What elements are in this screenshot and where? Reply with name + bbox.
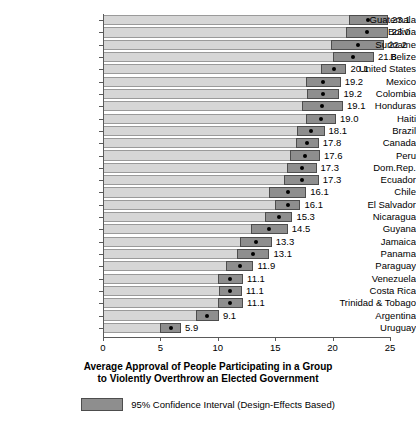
point-estimate-dot <box>228 277 232 281</box>
y-axis-tick <box>99 106 103 107</box>
bar-value-label: 9.1 <box>223 311 236 321</box>
bar-track <box>103 89 339 99</box>
y-axis-tick-label: Nicaragua <box>317 212 416 222</box>
bar-track <box>103 150 320 160</box>
y-axis-line <box>103 14 104 337</box>
y-axis-tick <box>99 94 103 95</box>
point-estimate-dot <box>251 252 255 256</box>
y-axis-tick-label: Ecuador <box>317 175 416 185</box>
x-axis-title-line1: Average Approval of People Participating… <box>0 361 416 373</box>
y-axis-tick-label: Canada <box>317 138 416 148</box>
point-estimate-dot <box>300 166 304 170</box>
y-axis-tick-label: Chile <box>317 188 416 198</box>
y-axis-tick <box>99 279 103 280</box>
y-axis-tick <box>99 291 103 292</box>
point-estimate-dot <box>300 178 304 182</box>
y-axis-tick-label: Argentina <box>317 311 416 321</box>
bar-value-label: 15.3 <box>296 212 315 222</box>
y-axis-tick-label: Colombia <box>317 89 416 99</box>
chart-container: 23.123.022.221.820.119.219.219.119.018.1… <box>0 0 416 427</box>
point-estimate-dot <box>286 190 290 194</box>
y-axis-tick <box>99 69 103 70</box>
y-axis-tick-label: Suriname <box>317 40 416 50</box>
bar-track <box>103 163 317 173</box>
y-axis-tick-label: United States <box>317 65 416 75</box>
y-axis-tick <box>99 254 103 255</box>
y-axis-tick-label: Belize <box>317 52 416 62</box>
x-axis-tick <box>275 337 276 341</box>
bar-value-label: 11.1 <box>247 298 265 308</box>
bar-value-label: 14.5 <box>292 225 311 235</box>
x-axis-tick <box>333 337 334 341</box>
y-axis-tick <box>99 242 103 243</box>
y-axis-tick-label: Mexico <box>317 77 416 87</box>
y-axis-tick <box>99 328 103 329</box>
x-axis-tick-label: 10 <box>213 343 224 353</box>
x-axis-tick-label: 5 <box>158 343 163 353</box>
y-axis-tick <box>99 229 103 230</box>
point-estimate-dot <box>238 264 242 268</box>
y-axis-tick <box>99 156 103 157</box>
y-axis-tick <box>99 45 103 46</box>
point-estimate-dot <box>267 227 271 231</box>
x-axis-line <box>103 337 391 338</box>
y-axis-tick <box>99 119 103 120</box>
x-axis-tick <box>390 337 391 341</box>
y-axis-tick <box>99 131 103 132</box>
y-axis-tick-label: Bolivia <box>317 28 416 38</box>
bar-value-label: 5.9 <box>185 323 198 333</box>
point-estimate-dot <box>303 154 307 158</box>
bar-track <box>103 200 300 210</box>
y-axis-tick <box>99 192 103 193</box>
y-axis-tick-label: Haiti <box>317 114 416 124</box>
y-axis-tick <box>99 205 103 206</box>
bar-value-label: 11.1 <box>247 274 265 284</box>
x-axis-tick <box>160 337 161 341</box>
bar-value-label: 13.3 <box>276 237 295 247</box>
bar-track <box>103 114 336 124</box>
y-axis-tick-label: Panama <box>317 249 416 259</box>
point-estimate-dot <box>277 215 281 219</box>
x-axis-tick-label: 15 <box>270 343 281 353</box>
point-estimate-dot <box>286 203 290 207</box>
x-axis-title: Average Approval of People Participating… <box>0 361 416 385</box>
y-axis-tick-label: Dom.Rep. <box>317 163 416 173</box>
point-estimate-dot <box>305 141 309 145</box>
y-axis-tick-label: Brazil <box>317 126 416 136</box>
point-estimate-dot <box>254 240 258 244</box>
y-axis-tick-label: Uruguay <box>317 323 416 333</box>
x-axis-tick <box>103 337 104 341</box>
point-estimate-dot <box>228 301 232 305</box>
y-axis-tick-label: Paraguay <box>317 262 416 272</box>
legend-swatch-ci <box>81 398 123 411</box>
legend-label-ci: 95% Confidence Interval (Design-Effects … <box>131 400 335 410</box>
x-axis-title-line2: to Violently Overthrow an Elected Govern… <box>0 373 416 385</box>
x-axis-tick <box>218 337 219 341</box>
y-axis-tick <box>99 168 103 169</box>
y-axis-tick <box>99 180 103 181</box>
y-axis-tick-label: Guatemala <box>317 15 416 25</box>
bar-value-label: 11.1 <box>246 286 264 296</box>
x-axis-tick-label: 25 <box>385 343 396 353</box>
bar-track <box>103 64 346 74</box>
y-axis-tick-label: Trinidad & Tobago <box>317 298 416 308</box>
point-estimate-dot <box>169 326 173 330</box>
bar-value-label: 11.9 <box>257 262 275 272</box>
y-axis-tick <box>99 316 103 317</box>
y-axis-tick <box>99 20 103 21</box>
bar-value-label: 13.1 <box>273 249 292 259</box>
y-axis-tick <box>99 303 103 304</box>
y-axis-tick-label: Venezuela <box>317 274 416 284</box>
legend: 95% Confidence Interval (Design-Effects … <box>0 398 416 411</box>
y-axis-tick <box>99 217 103 218</box>
y-axis-tick-label: Jamaica <box>317 237 416 247</box>
y-axis-tick-label: El Salvador <box>317 200 416 210</box>
y-axis-tick-label: Honduras <box>317 102 416 112</box>
y-axis-tick <box>99 82 103 83</box>
y-axis-tick-label: Guyana <box>317 225 416 235</box>
bar-track <box>103 138 319 148</box>
y-axis-tick <box>99 266 103 267</box>
y-axis-tick <box>99 143 103 144</box>
bar-track <box>103 77 341 87</box>
y-axis-tick-label: Peru <box>317 151 416 161</box>
